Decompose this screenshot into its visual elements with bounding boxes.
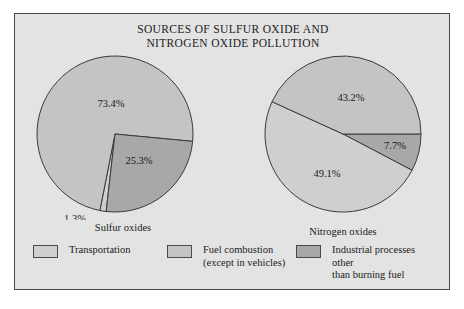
pie-svg-nitrogen-oxides: 43.2%7.7%49.1% [253,44,433,220]
chart-legend: Transportation Fuel combustion (except i… [33,242,437,278]
chart-title-line-1: SOURCES OF SULFUR OXIDE AND [15,22,451,36]
pie-slice-label: 7.7% [384,140,406,151]
pie-slice-label: 73.4% [97,98,124,109]
legend-label-transportation: Transportation [69,244,130,257]
pie-slice-label: 1.3% [64,213,86,220]
legend-item-transportation[interactable]: Transportation [33,244,130,258]
legend-label-fuel-combustion: Fuel combustion (except in vehicles) [203,244,285,269]
pie-caption-nitrogen-oxides: Nitrogen oxides [253,226,433,237]
pie-caption-sulfur-oxides: Sulfur oxides [33,222,213,233]
pie-slice-label: 43.2% [337,92,364,103]
legend-swatch-industrial-processes [296,245,321,258]
legend-item-industrial-processes[interactable]: Industrial processes other than burning … [296,244,437,282]
pie-chart-nitrogen-oxides: 43.2%7.7%49.1% Nitrogen oxides [253,44,433,234]
legend-label-industrial-processes: Industrial processes other than burning … [332,244,437,282]
pie-slice-label: 49.1% [313,168,340,179]
figure-canvas: SOURCES OF SULFUR OXIDE AND NITROGEN OXI… [0,0,464,309]
pie-slice[interactable] [106,134,192,212]
pie-chart-sulfur-oxides: 73.4%25.3%1.3% Sulfur oxides [33,44,213,234]
legend-swatch-transportation [33,245,58,258]
chart-panel: SOURCES OF SULFUR OXIDE AND NITROGEN OXI… [14,13,450,290]
legend-item-fuel-combustion[interactable]: Fuel combustion (except in vehicles) [167,244,285,269]
legend-swatch-fuel-combustion [167,245,192,258]
pie-svg-sulfur-oxides: 73.4%25.3%1.3% [33,44,213,220]
pie-slice-label: 25.3% [125,155,152,166]
